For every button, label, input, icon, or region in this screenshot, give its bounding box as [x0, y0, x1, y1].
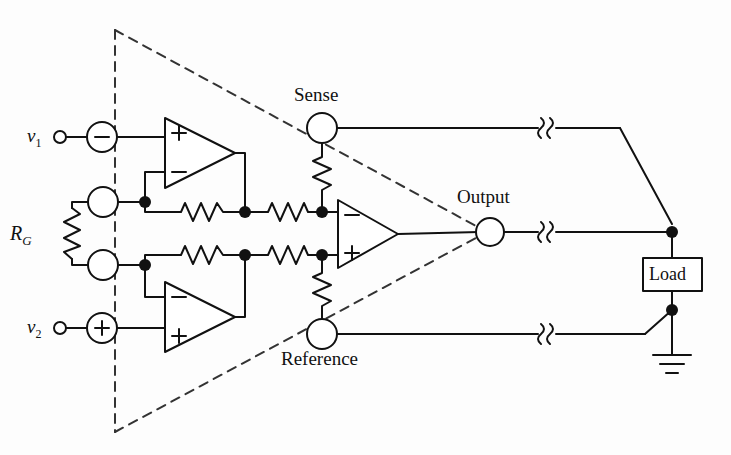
resistor-rg-zigzag	[64, 208, 80, 259]
ground-icon	[653, 355, 691, 373]
v1-input-branch	[54, 122, 165, 152]
junction-bridge-bottom	[239, 249, 251, 261]
reference-resistor-path	[313, 255, 331, 319]
resistor-fb-bottom-zigzag	[175, 246, 228, 264]
resistor-sense-zigzag	[313, 152, 331, 200]
output-terminal	[476, 218, 504, 246]
load-top-junction	[666, 226, 678, 238]
resistor-fb-top-zigzag	[175, 203, 228, 221]
rg-bottom-circle	[88, 250, 118, 280]
wire-break-output	[538, 222, 553, 242]
v2-terminal	[54, 322, 66, 334]
reference-terminal	[307, 319, 337, 349]
gain-resistor-network	[64, 187, 145, 280]
resistor-bridge-bottom-zigzag	[262, 246, 312, 264]
rg-top-circle	[88, 187, 118, 217]
v1-terminal	[54, 131, 66, 143]
v2-label: v2	[27, 316, 41, 342]
bridge-resistor-top-path	[245, 203, 322, 221]
difference-amplifier-opamp	[322, 200, 479, 268]
junction-bridge-top	[239, 206, 251, 218]
junction-inv-top	[139, 196, 151, 208]
circuit-schematic	[0, 0, 731, 455]
upper-input-opamp	[145, 118, 245, 212]
reference-label: Reference	[281, 348, 358, 370]
wire-break-reference	[538, 324, 553, 344]
junction-amp-minus	[316, 206, 328, 218]
load-bottom-junction	[666, 304, 678, 316]
junction-amp-plus	[316, 249, 328, 261]
wire-break-sense	[538, 118, 553, 138]
load-and-ground	[643, 232, 702, 373]
lower-input-opamp	[145, 255, 245, 352]
resistor-reference-zigzag	[313, 268, 331, 316]
sense-label: Sense	[294, 84, 338, 106]
resistor-bridge-top-zigzag	[262, 203, 312, 221]
feedback-resistor-top-path	[145, 202, 245, 221]
bridge-resistor-bottom-path	[245, 246, 322, 264]
sense-terminal	[307, 113, 337, 143]
junction-inv-bottom	[139, 259, 151, 271]
reference-return-wire	[337, 310, 672, 334]
output-label: Output	[457, 186, 510, 208]
sense-resistor-path	[313, 143, 331, 212]
sense-feedback-wire	[337, 128, 672, 224]
figure-canvas: v1 v2 RG Sense Reference Output Load	[0, 0, 731, 455]
v1-label: v1	[27, 125, 41, 151]
load-label: Load	[649, 264, 686, 285]
rg-label: RG	[10, 222, 32, 249]
feedback-resistor-bottom-path	[145, 246, 245, 265]
v2-input-branch	[54, 313, 165, 343]
